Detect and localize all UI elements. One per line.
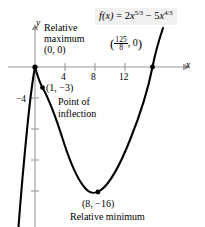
relative-maximum-annotation: Relative maximum (0, 0) xyxy=(44,22,85,56)
graph-figure: f(x) = 2x5/3 − 5x4/3 Relative maximum (0… xyxy=(0,0,205,227)
inflection-line2: inflection xyxy=(58,108,96,120)
equation-term2-exponent: 4/3 xyxy=(164,9,172,16)
point-relative-minimum xyxy=(96,190,101,195)
x-tick-label-8: 8 xyxy=(91,72,96,83)
minimum-coordinates: (8, −16) xyxy=(82,198,114,209)
x-intercept-annotation: (1258, 0) xyxy=(110,36,142,52)
point-relative-maximum xyxy=(32,64,37,69)
equation-minus: − xyxy=(146,10,152,21)
x-tick-label-12: 12 xyxy=(119,72,129,83)
equation-term1-exponent: 5/3 xyxy=(135,9,143,16)
plot-canvas xyxy=(0,0,205,227)
point-x-intercept xyxy=(150,65,155,70)
relative-maximum-coordinates: (0, 0) xyxy=(44,44,85,55)
x-intercept-denominator: 8 xyxy=(114,43,127,52)
x-axis-label: x xyxy=(186,60,190,71)
x-intercept-close-paren: ) xyxy=(138,36,142,51)
x-intercept-rest: , 0 xyxy=(128,37,138,48)
inflection-coordinates: (1, −3) xyxy=(46,82,73,93)
x-intercept-fraction: 1258 xyxy=(114,36,127,52)
equation-lhs: f(x) xyxy=(99,10,114,21)
function-equation: f(x) = 2x5/3 − 5x4/3 xyxy=(95,8,177,25)
equation-equals: = xyxy=(116,10,122,21)
relative-maximum-line2: maximum xyxy=(44,33,85,44)
relative-maximum-line1: Relative xyxy=(44,22,85,33)
y-axis-label: y xyxy=(36,18,40,29)
curve-left-branch xyxy=(19,67,36,227)
x-intercept-numerator: 125 xyxy=(114,36,127,44)
y-tick-label-neg4: −4 xyxy=(16,94,26,105)
relative-minimum-label: Relative minimum xyxy=(70,211,145,222)
point-inflection xyxy=(40,85,45,90)
inflection-line1: Point of xyxy=(58,96,96,108)
inflection-annotation: Point of inflection xyxy=(58,96,96,120)
